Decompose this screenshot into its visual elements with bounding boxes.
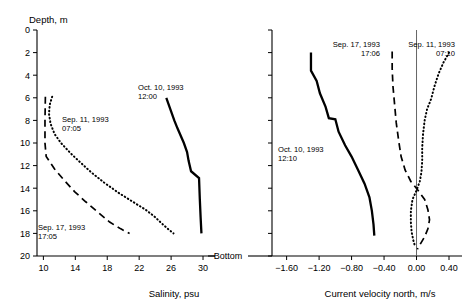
value-tick-label: 0.40	[440, 263, 458, 273]
series-annotation-time: 07:10	[436, 49, 455, 58]
depth-tick-label: 10	[20, 138, 30, 148]
depth-tick-label: 18	[20, 229, 30, 239]
depth-tick-label: 6	[25, 93, 30, 103]
value-tick-label: −1.20	[308, 263, 331, 273]
series-annotation-time: 17:06	[361, 49, 380, 58]
value-tick-label: 18	[102, 263, 112, 273]
salinity-panel: 02468101214161820101418222630Oct. 10, 19…	[20, 25, 215, 273]
depth-tick-label: 12	[20, 161, 30, 171]
depth-axis-title: Depth, m	[29, 14, 68, 25]
series-curve	[166, 98, 201, 234]
depth-tick-label: 0	[25, 25, 30, 35]
series-annotation-time: 12:10	[278, 154, 297, 163]
value-tick-label: −0.40	[373, 263, 396, 273]
oceanographic-profile-figure: 02468101214161820101418222630Oct. 10, 19…	[0, 0, 468, 308]
series-annotation-date: Sep. 17, 1993	[38, 223, 85, 232]
depth-tick-label: 2	[25, 48, 30, 58]
value-tick-label: −1.60	[275, 263, 298, 273]
value-tick-label: 0.00	[408, 263, 426, 273]
value-tick-label: 30	[198, 263, 208, 273]
series-annotation-date: Sep. 11, 1993	[408, 40, 455, 49]
series-annotation-date: Oct. 10, 1993	[138, 83, 184, 92]
depth-tick-label: 16	[20, 206, 30, 216]
current-velocity-axis-title: Current velocity north, m/s	[325, 288, 436, 299]
series-annotation-time: 07:05	[62, 124, 81, 133]
current-velocity-panel: −1.60−1.20−0.80−0.400.000.40Sep. 17, 199…	[268, 30, 462, 273]
series-annotation-time: 17:05	[38, 232, 57, 241]
chart-canvas: 02468101214161820101418222630Oct. 10, 19…	[0, 0, 468, 308]
value-tick-label: −0.80	[340, 263, 363, 273]
value-tick-label: 14	[70, 263, 80, 273]
value-tick-label: 26	[166, 263, 176, 273]
series-annotation-date: Sep. 17, 1993	[333, 40, 380, 49]
depth-tick-label: 8	[25, 116, 30, 126]
bottom-label: Bottom	[214, 251, 243, 261]
value-tick-label: 22	[134, 263, 144, 273]
depth-tick-label: 4	[25, 71, 30, 81]
value-tick-label: 10	[38, 263, 48, 273]
series-annotation-time: 12:00	[138, 92, 157, 101]
depth-tick-label: 20	[20, 251, 30, 261]
salinity-axis-title: Salinity, psu	[149, 288, 200, 299]
depth-tick-label: 14	[20, 184, 30, 194]
series-annotation-date: Oct. 10, 1993	[278, 145, 324, 154]
series-annotation-date: Sep. 11, 1993	[62, 115, 109, 124]
